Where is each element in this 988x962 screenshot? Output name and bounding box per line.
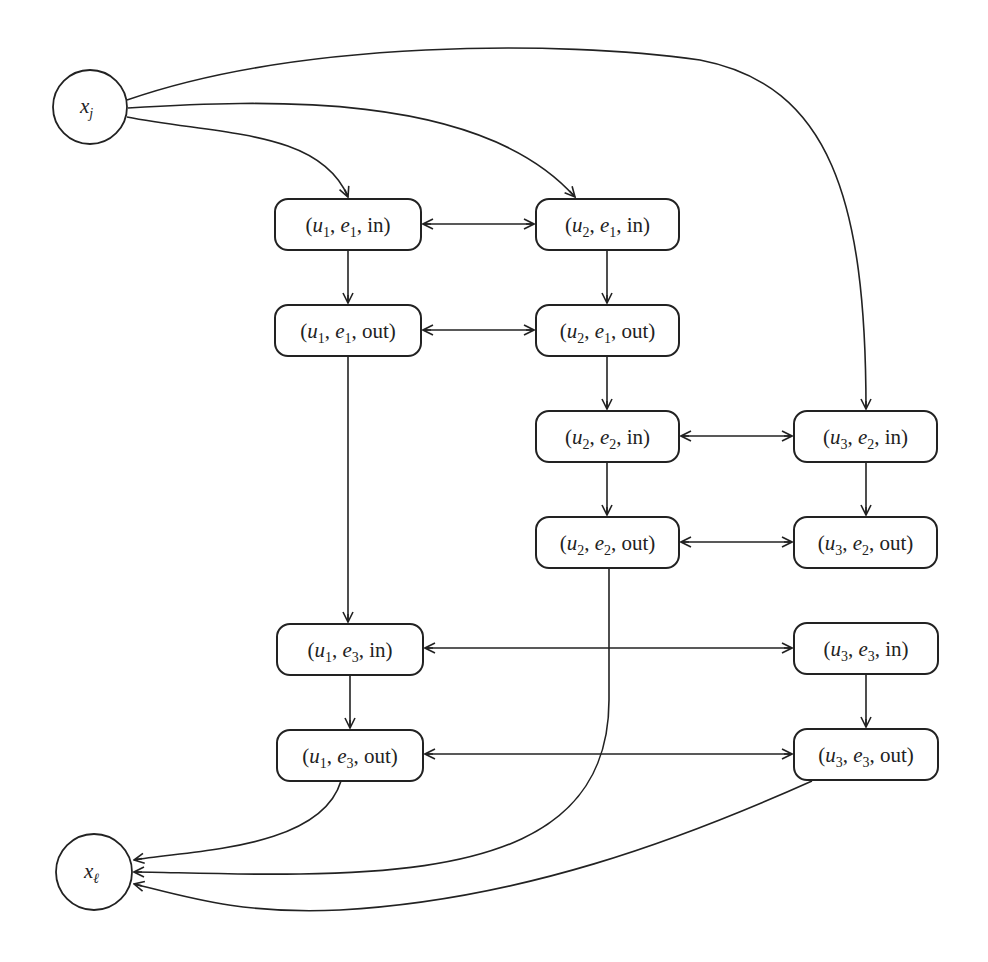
node-u3e3out: (u3, e3, out) <box>794 729 938 780</box>
node-label: (u2, e2, in) <box>565 425 650 452</box>
node-xl: xℓ <box>56 834 132 910</box>
edge-xj-to-u1e1in <box>127 117 348 197</box>
node-u2e1out: (u2, e1, out) <box>536 305 679 356</box>
node-u2e1in: (u2, e1, in) <box>536 199 679 250</box>
node-xj: xj <box>53 70 127 144</box>
node-label: (u3, e2, in) <box>823 425 908 452</box>
node-label: (u1, e1, in) <box>305 213 390 240</box>
node-u1e1out: (u1, e1, out) <box>275 305 421 356</box>
edge-xj-to-u3e2in <box>127 48 866 409</box>
edge-u1e3out-to-xl <box>134 781 341 860</box>
node-u3e2out: (u3, e2, out) <box>794 517 937 568</box>
node-u1e1in: (u1, e1, in) <box>275 199 421 250</box>
node-u2e2out: (u2, e2, out) <box>536 517 679 568</box>
node-u3e3in: (u3, e3, in) <box>794 623 938 674</box>
graph-diagram: xjxℓ(u1, e1, in)(u2, e1, in)(u1, e1, out… <box>0 0 988 962</box>
node-u2e2in: (u2, e2, in) <box>536 411 679 462</box>
node-label: (u3, e3, in) <box>823 637 908 664</box>
edges-layer <box>127 48 866 911</box>
node-label: (u1, e3, in) <box>307 638 392 665</box>
edge-u2e2out-to-xl <box>134 568 609 874</box>
node-u1e3in: (u1, e3, in) <box>277 624 423 675</box>
node-u1e3out: (u1, e3, out) <box>277 730 423 781</box>
node-label: (u2, e1, in) <box>565 213 650 240</box>
node-u3e2in: (u3, e2, in) <box>794 411 937 462</box>
edge-xj-to-u2e1in <box>128 103 575 197</box>
